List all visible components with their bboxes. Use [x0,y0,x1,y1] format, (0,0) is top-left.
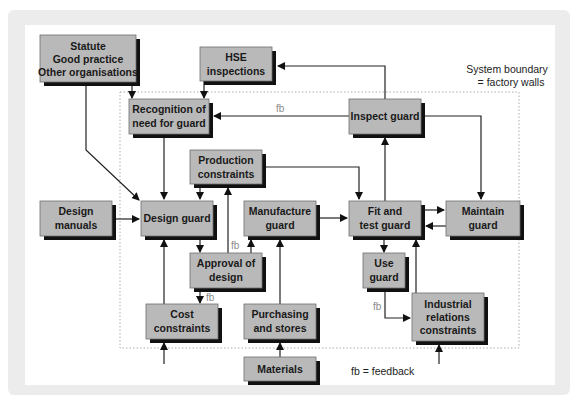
svg-text:guard: guard [265,219,294,231]
node-use-guard: Use guard [363,253,409,292]
svg-text:Statute: Statute [70,40,106,52]
svg-text:Design: Design [58,205,93,217]
fb-label: fb [373,301,382,312]
svg-text:manuals: manuals [55,219,98,231]
svg-text:and stores: and stores [253,322,306,334]
node-production-constraints: Production constraints [190,150,266,188]
node-manufacture-guard: Manufacture guard [244,201,320,240]
svg-text:Approval of: Approval of [197,257,256,269]
svg-text:constraints: constraints [420,324,477,336]
svg-text:Use: Use [374,257,393,269]
fb-label: fb [276,103,285,114]
svg-text:Cost: Cost [170,308,194,320]
svg-text:Industrial: Industrial [424,298,471,310]
node-maintain-guard: Maintain guard [446,201,524,240]
boundary-label-2: = factory walls [478,76,545,88]
svg-text:design: design [209,271,243,283]
node-purchasing-stores: Purchasing and stores [244,304,320,343]
svg-text:constraints: constraints [154,322,211,334]
svg-text:Recognition of: Recognition of [132,103,206,115]
svg-text:Materials: Materials [257,363,303,375]
svg-text:test guard: test guard [360,219,411,231]
node-hse-inspections: HSE inspections [200,47,276,85]
svg-text:Purchasing: Purchasing [251,308,308,320]
node-recognition: Recognition of need for guard [129,99,213,138]
svg-text:Maintain: Maintain [462,205,505,217]
node-fit-test-guard: Fit and test guard [349,201,425,240]
node-design-manuals: Design manuals [40,201,116,240]
svg-text:Production: Production [198,154,253,166]
svg-text:Good practice: Good practice [53,53,124,65]
node-approval-of-design: Approval of design [190,253,266,292]
node-cost-constraints: Cost constraints [146,304,222,343]
svg-text:HSE: HSE [225,51,247,63]
svg-text:Manufacture: Manufacture [249,205,312,217]
fb-label: fb [206,292,215,303]
svg-text:guard: guard [369,271,398,283]
node-statute: Statute Good practice Other organisation… [38,35,140,86]
svg-text:need for guard: need for guard [132,117,206,129]
boundary-label-1: System boundary [466,63,548,75]
svg-text:guard: guard [468,219,497,231]
node-materials: Materials [244,357,320,385]
node-industrial-relations: Industrial relations constraints [412,293,488,345]
svg-text:relations: relations [426,311,470,323]
node-inspect-guard: Inspect guard [349,99,425,138]
fb-label: fb [231,240,240,251]
svg-text:Inspect guard: Inspect guard [351,110,420,122]
svg-text:Other organisations: Other organisations [38,66,138,78]
svg-text:Fit and: Fit and [368,205,402,217]
node-design-guard: Design guard [141,201,217,240]
svg-text:constraints: constraints [198,168,255,180]
process-diagram: System boundary = factory walls fb fb f [0,0,577,404]
svg-text:Design guard: Design guard [143,212,210,224]
svg-text:inspections: inspections [207,65,266,77]
legend-feedback: fb = feedback [351,365,415,377]
